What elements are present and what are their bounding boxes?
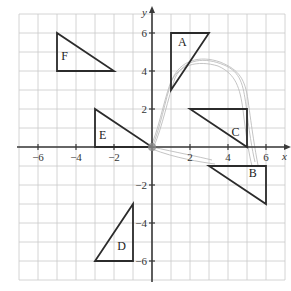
- x-tick-label: −4: [70, 151, 82, 163]
- triangle-label-d: D: [117, 239, 126, 253]
- coordinate-grid-diagram: xy −6−4−2246642−2−4−6 ABCDEF: [0, 0, 291, 291]
- pencil-scribble: [150, 63, 252, 166]
- x-tick-label: 4: [225, 151, 231, 163]
- triangle-label-a: A: [178, 35, 187, 49]
- x-axis-label: x: [281, 150, 287, 162]
- triangle-label-b: B: [249, 166, 257, 180]
- pencil-scribbles: [150, 59, 258, 166]
- triangle-label-f: F: [61, 49, 68, 63]
- y-tick-label: 4: [142, 65, 148, 77]
- y-tick-label: −4: [135, 217, 147, 229]
- x-tick-label: −2: [108, 151, 120, 163]
- x-tick-label: 2: [187, 151, 193, 163]
- y-axis-arrow: [149, 6, 155, 13]
- x-tick-label: −6: [32, 151, 44, 163]
- y-tick-label: −6: [135, 255, 147, 267]
- y-tick-label: 2: [142, 103, 148, 115]
- pencil-scribble: [152, 59, 258, 165]
- y-tick-label: 6: [142, 27, 148, 39]
- triangle-label-e: E: [99, 128, 106, 142]
- origin-dot: [148, 143, 156, 151]
- y-tick-label: −2: [135, 179, 147, 191]
- y-axis-label: y: [141, 6, 147, 18]
- x-tick-label: 6: [263, 151, 269, 163]
- pencil-scribble: [152, 149, 215, 164]
- triangle-label-c: C: [232, 125, 240, 139]
